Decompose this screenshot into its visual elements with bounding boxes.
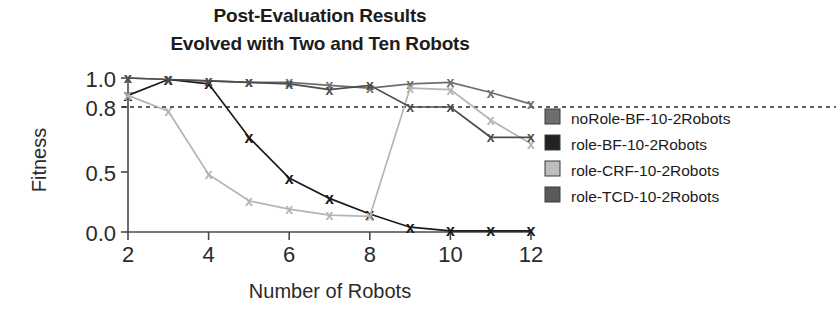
data-point-marker: x xyxy=(406,99,414,115)
x-axis: 24681012 xyxy=(122,232,543,267)
legend-item-role-CRF-10-2Robots[interactable]: role-CRF-10-2Robots xyxy=(545,161,719,179)
y-axis-label: Fitness xyxy=(28,128,50,192)
legend-item-noRole-BF-10-2Robots[interactable]: noRole-BF-10-2Robots xyxy=(545,109,731,127)
data-point-marker: x xyxy=(366,77,374,93)
y-axis: 1.00.80.50.0 xyxy=(85,67,128,246)
data-point-marker: x xyxy=(446,222,455,239)
data-point-marker: x xyxy=(326,207,334,223)
chart-legend: noRole-BF-10-2Robotsrole-BF-10-2Robotsro… xyxy=(545,109,731,205)
data-point-marker: x xyxy=(486,222,495,239)
data-point-marker: x xyxy=(487,129,495,145)
x-tick-label: 10 xyxy=(438,242,462,267)
data-point-marker: x xyxy=(285,170,294,187)
data-point-marker: x xyxy=(245,193,253,209)
data-point-marker: x xyxy=(527,129,535,145)
chart-title: Post-Evaluation Results xyxy=(214,5,427,26)
data-point-marker: x xyxy=(244,129,253,146)
data-point-marker: x xyxy=(527,96,535,112)
legend-swatch xyxy=(545,135,560,150)
legend-item-role-BF-10-2Robots[interactable]: role-BF-10-2Robots xyxy=(545,135,707,153)
y-tick-label: 0.5 xyxy=(85,161,116,186)
legend-label: role-TCD-10-2Robots xyxy=(571,188,719,205)
data-point-marker: x xyxy=(124,87,132,103)
data-point-marker: x xyxy=(285,76,293,92)
x-axis-label: Number of Robots xyxy=(249,280,411,302)
x-tick-label: 2 xyxy=(122,242,134,267)
data-point-marker: x xyxy=(325,190,334,207)
y-tick-label: 0.0 xyxy=(85,221,116,246)
data-point-marker: x xyxy=(447,82,455,98)
chart-figure: Post-Evaluation Results Evolved with Two… xyxy=(0,0,837,320)
data-series-layer: xxxxxxxxxxxxxxxxxxxxxxxxxxxxxxxxxxxxxxxx… xyxy=(124,70,536,239)
chart-canvas: Post-Evaluation Results Evolved with Two… xyxy=(0,0,837,320)
data-point-marker: x xyxy=(406,80,414,96)
data-point-marker: x xyxy=(164,103,172,119)
data-point-marker: x xyxy=(245,74,253,90)
y-tick-label: 1.0 xyxy=(85,67,116,92)
data-point-marker: x xyxy=(487,112,495,128)
chart-subtitle: Evolved with Two and Ten Robots xyxy=(170,33,469,54)
legend-swatch xyxy=(545,161,560,176)
data-point-marker: x xyxy=(487,85,495,101)
data-point-marker: x xyxy=(366,208,374,224)
data-point-marker: x xyxy=(406,219,415,236)
legend-item-role-TCD-10-2Robots[interactable]: role-TCD-10-2Robots xyxy=(545,187,719,205)
data-point-marker: x xyxy=(527,222,536,239)
legend-label: noRole-BF-10-2Robots xyxy=(571,110,731,127)
x-tick-label: 8 xyxy=(364,242,376,267)
data-point-marker: x xyxy=(205,73,213,89)
legend-swatch xyxy=(545,109,560,124)
x-tick-label: 12 xyxy=(519,242,543,267)
data-point-marker: x xyxy=(285,201,293,217)
data-point-marker: x xyxy=(124,70,132,86)
legend-swatch xyxy=(545,187,560,202)
legend-label: role-CRF-10-2Robots xyxy=(571,162,719,179)
data-point-marker: x xyxy=(447,99,455,115)
data-point-marker: x xyxy=(164,71,172,87)
x-tick-label: 4 xyxy=(202,242,214,267)
legend-label: role-BF-10-2Robots xyxy=(571,136,707,153)
data-point-marker: x xyxy=(326,82,334,98)
y-tick-label: 0.8 xyxy=(85,96,116,121)
data-point-marker: x xyxy=(205,166,213,182)
x-tick-label: 6 xyxy=(283,242,295,267)
